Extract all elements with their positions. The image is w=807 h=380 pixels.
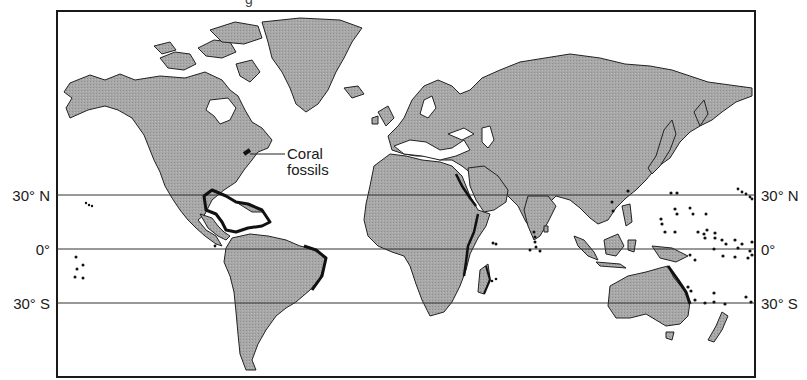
- lat-label-equator-left: 0°: [0, 242, 50, 257]
- sulawesi: [628, 240, 636, 252]
- lat-label-30n-right: 30° N: [761, 188, 799, 203]
- lat-label-30s-right: 30° S: [761, 296, 798, 311]
- title-fragment: g: [245, 0, 253, 7]
- lat-label-equator-right: 0°: [761, 242, 775, 257]
- callout-line-2: fossils: [287, 162, 329, 178]
- lat-label-30n-left: 30° N: [0, 188, 50, 203]
- coral-fossils-callout: Coral fossils: [287, 146, 329, 178]
- callout-line-1: Coral: [287, 146, 329, 162]
- world-map: [0, 0, 807, 380]
- lat-label-30s-left: 30° S: [0, 296, 50, 311]
